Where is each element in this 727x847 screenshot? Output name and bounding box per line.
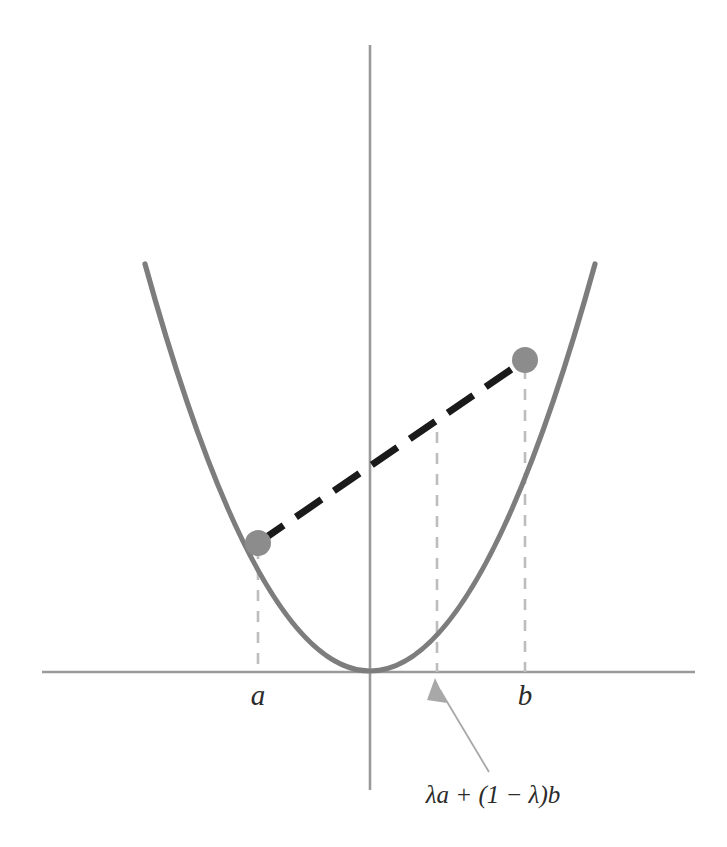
point-marker-a	[245, 530, 271, 556]
axis-tick-label-a: a	[251, 679, 266, 711]
axes-group	[42, 45, 695, 790]
chord-line	[258, 360, 525, 543]
figure-canvas: a b λa + (1 − λ)b	[0, 0, 727, 847]
annotation-arrow-shaft	[440, 690, 489, 772]
annotation-arrow-head	[427, 678, 447, 703]
lambda-combination-label: λa + (1 − λ)b	[425, 781, 561, 809]
point-marker-b	[512, 347, 538, 373]
convexity-figure: a b λa + (1 − λ)b	[0, 0, 727, 847]
axis-tick-label-b: b	[518, 679, 533, 711]
annotation-arrow	[427, 678, 489, 772]
